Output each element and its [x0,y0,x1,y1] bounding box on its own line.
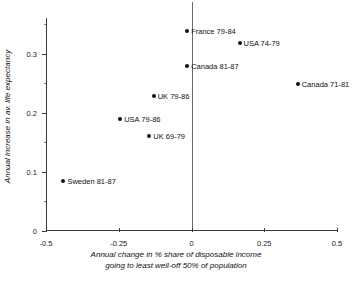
x-axis-tick [192,228,193,232]
y-axis-minor-tick [44,201,46,202]
x-axis-tick-label: 0 [189,239,193,248]
data-point-label: France 79-84 [191,27,236,36]
data-point [185,64,189,68]
scatter-chart: Annual increase in av. life expectancy -… [0,0,352,282]
y-axis-tick [42,113,46,114]
plot-area: -0.5-0.2500.250.500.10.20.3France 79-84U… [46,18,337,231]
data-point [61,179,65,183]
y-axis-tick [42,54,46,55]
x-axis-tick-label: -0.25 [110,239,127,248]
data-point [185,29,189,33]
data-point [147,134,151,138]
data-point-label: USA 74-79 [244,38,280,47]
y-axis-minor-tick [44,142,46,143]
y-axis-title: Annual increase in av. life expectancy [2,0,14,232]
data-point [296,82,300,86]
data-point-label: USA 79-86 [124,114,160,123]
x-axis-tick [264,228,265,232]
data-point-label: Canada 71-81 [302,80,350,89]
x-axis-tick [119,228,120,232]
data-point-label: Canada 81-87 [191,61,239,70]
data-point [118,117,122,121]
y-axis-tick-label: 0.3 [27,49,37,58]
y-axis-title-label: Annual increase in av. life expectancy [4,49,13,182]
y-axis-minor-tick [44,83,46,84]
y-axis-minor-tick [44,24,46,25]
x-axis-tick [337,228,338,232]
zero-reference-line [192,2,193,231]
x-axis-tick [46,228,47,232]
y-axis-tick-label: 0 [33,227,37,236]
y-axis-tick-label: 0.2 [27,108,37,117]
y-axis-tick [42,231,46,232]
data-point [152,94,156,98]
x-axis-tick-label: -0.5 [40,239,53,248]
y-axis-tick [42,172,46,173]
data-point-label: UK 69-79 [153,132,185,141]
x-axis-title: Annual change in % share of disposable i… [0,250,352,271]
x-axis-title-line1: Annual change in % share of disposable i… [0,250,352,261]
x-axis-tick-label: 0.5 [332,239,342,248]
y-axis-tick-label: 0.1 [27,167,37,176]
data-point-label: UK 79-86 [158,92,190,101]
x-axis-title-line2: going to least well-off 50% of populatio… [0,261,352,272]
data-point-label: Sweden 81-87 [67,176,115,185]
x-axis-tick-label: 0.25 [257,239,272,248]
data-point [238,41,242,45]
y-axis-line [46,18,47,231]
